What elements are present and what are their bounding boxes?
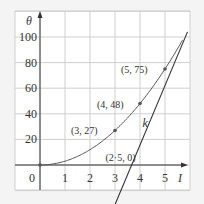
x-tick-label: 4 [137,171,143,185]
x-tick-label: 3 [112,171,118,185]
annotation-label: (3, 27) [71,125,98,137]
y-tick-label: 60 [25,81,37,95]
data-point [113,129,117,133]
data-point [138,102,142,106]
annotation-label: (2·5, 0) [106,152,136,164]
y-axis-label: θ [26,14,32,28]
x-tick-label: 5 [162,171,168,185]
y-tick-label: 20 [25,132,37,146]
annotation-label: (5, 75) [121,64,148,76]
y-tick-label: 40 [25,107,37,121]
data-point [38,163,42,167]
annotation-label: (4, 48) [97,99,124,111]
annotation-label: k [143,116,149,130]
x-tick-label: 1 [62,171,68,185]
y-tick-label: 100 [19,30,37,44]
chart: 01234520406080100Iθ (3, 27)(4, 48)(5, 75… [0,0,204,204]
x-tick-label: 0 [29,171,35,185]
data-point [163,67,167,71]
x-tick-label: 2 [87,171,93,185]
y-tick-label: 80 [25,56,37,70]
